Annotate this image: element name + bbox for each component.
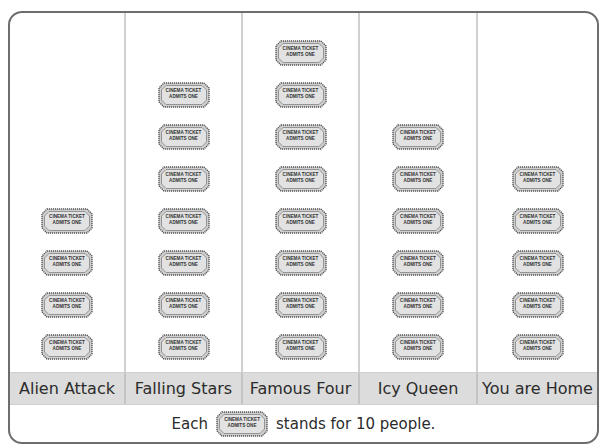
cinema-ticket-icon: CINEMA TICKETADMITS ONE bbox=[512, 334, 564, 360]
ticket-stack: CINEMA TICKETADMITS ONECINEMA TICKETADMI… bbox=[478, 166, 597, 360]
category-label: Alien Attack bbox=[10, 373, 126, 404]
cinema-ticket-icon: CINEMA TICKETADMITS ONE bbox=[158, 82, 210, 108]
cinema-ticket-icon: CINEMA TICKETADMITS ONE bbox=[275, 40, 327, 66]
pictograph-plot: CINEMA TICKETADMITS ONECINEMA TICKETADMI… bbox=[10, 13, 597, 372]
key-legend: Each CINEMA TICKETADMITS ONE stands for … bbox=[10, 405, 597, 442]
cinema-ticket-icon: CINEMA TICKETADMITS ONE bbox=[392, 124, 444, 150]
cinema-ticket-icon: CINEMA TICKETADMITS ONE bbox=[392, 250, 444, 276]
cinema-ticket-icon: CINEMA TICKETADMITS ONE bbox=[512, 250, 564, 276]
category-label: You are Home bbox=[478, 373, 597, 404]
category-label-row: Alien AttackFalling StarsFamous FourIcy … bbox=[10, 372, 597, 405]
cinema-ticket-icon: CINEMA TICKETADMITS ONE bbox=[275, 82, 327, 108]
key-ticket-icon: CINEMA TICKETADMITS ONE bbox=[216, 411, 268, 437]
key-suffix: stands for 10 people. bbox=[276, 415, 435, 433]
category-label: Falling Stars bbox=[126, 373, 243, 404]
ticket-stack: CINEMA TICKETADMITS ONECINEMA TICKETADMI… bbox=[126, 82, 241, 360]
cinema-ticket-icon: CINEMA TICKETADMITS ONE bbox=[275, 250, 327, 276]
pictograph-column: CINEMA TICKETADMITS ONECINEMA TICKETADMI… bbox=[126, 13, 243, 372]
cinema-ticket-icon: CINEMA TICKETADMITS ONE bbox=[392, 292, 444, 318]
cinema-ticket-icon: CINEMA TICKETADMITS ONE bbox=[41, 208, 93, 234]
cinema-ticket-icon: CINEMA TICKETADMITS ONE bbox=[158, 166, 210, 192]
cinema-ticket-icon: CINEMA TICKETADMITS ONE bbox=[392, 166, 444, 192]
pictograph-column: CINEMA TICKETADMITS ONECINEMA TICKETADMI… bbox=[478, 13, 597, 372]
category-label: Icy Queen bbox=[360, 373, 478, 404]
ticket-stack: CINEMA TICKETADMITS ONECINEMA TICKETADMI… bbox=[10, 208, 124, 360]
cinema-ticket-icon: CINEMA TICKETADMITS ONE bbox=[275, 292, 327, 318]
cinema-ticket-icon: CINEMA TICKETADMITS ONE bbox=[392, 208, 444, 234]
cinema-ticket-icon: CINEMA TICKETADMITS ONE bbox=[41, 334, 93, 360]
pictograph-column: CINEMA TICKETADMITS ONECINEMA TICKETADMI… bbox=[243, 13, 360, 372]
ticket-stack: CINEMA TICKETADMITS ONECINEMA TICKETADMI… bbox=[360, 124, 476, 360]
cinema-ticket-icon: CINEMA TICKETADMITS ONE bbox=[158, 292, 210, 318]
key-prefix: Each bbox=[172, 415, 208, 433]
cinema-ticket-icon: CINEMA TICKETADMITS ONE bbox=[158, 250, 210, 276]
cinema-ticket-icon: CINEMA TICKETADMITS ONE bbox=[512, 292, 564, 318]
cinema-ticket-icon: CINEMA TICKETADMITS ONE bbox=[41, 250, 93, 276]
ticket-stack: CINEMA TICKETADMITS ONECINEMA TICKETADMI… bbox=[243, 40, 358, 360]
cinema-ticket-icon: CINEMA TICKETADMITS ONE bbox=[158, 124, 210, 150]
cinema-ticket-icon: CINEMA TICKETADMITS ONE bbox=[275, 124, 327, 150]
pictograph-column: CINEMA TICKETADMITS ONECINEMA TICKETADMI… bbox=[360, 13, 478, 372]
cinema-ticket-icon: CINEMA TICKETADMITS ONE bbox=[275, 166, 327, 192]
cinema-ticket-icon: CINEMA TICKETADMITS ONE bbox=[158, 208, 210, 234]
cinema-ticket-icon: CINEMA TICKETADMITS ONE bbox=[275, 208, 327, 234]
pictograph-frame: CINEMA TICKETADMITS ONECINEMA TICKETADMI… bbox=[8, 11, 599, 444]
category-label: Famous Four bbox=[243, 373, 360, 404]
cinema-ticket-icon: CINEMA TICKETADMITS ONE bbox=[216, 411, 268, 437]
cinema-ticket-icon: CINEMA TICKETADMITS ONE bbox=[275, 334, 327, 360]
cinema-ticket-icon: CINEMA TICKETADMITS ONE bbox=[158, 334, 210, 360]
cinema-ticket-icon: CINEMA TICKETADMITS ONE bbox=[512, 166, 564, 192]
pictograph-column: CINEMA TICKETADMITS ONECINEMA TICKETADMI… bbox=[10, 13, 126, 372]
cinema-ticket-icon: CINEMA TICKETADMITS ONE bbox=[41, 292, 93, 318]
cinema-ticket-icon: CINEMA TICKETADMITS ONE bbox=[392, 334, 444, 360]
cinema-ticket-icon: CINEMA TICKETADMITS ONE bbox=[512, 208, 564, 234]
